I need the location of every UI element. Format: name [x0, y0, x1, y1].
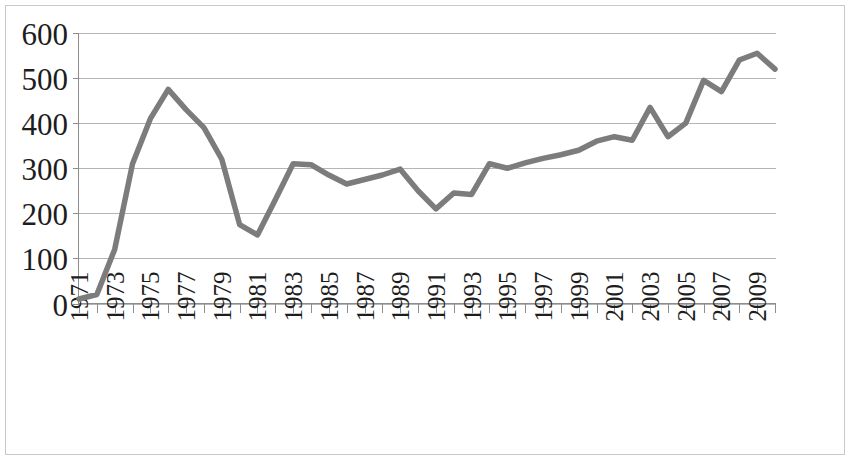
x-tick-label: 1977: [173, 272, 200, 322]
x-tick-label: 1989: [387, 272, 414, 322]
x-tick-label: 2007: [708, 272, 735, 322]
y-axis-tick-labels: 0100200300400500600: [22, 17, 69, 323]
x-tick-label: 1975: [137, 272, 164, 322]
x-tick-label: 1979: [209, 272, 236, 322]
x-tick-label: 1991: [423, 272, 450, 322]
x-tick-label: 1995: [494, 272, 521, 322]
data-series-line: [79, 53, 775, 299]
y-tick-label: 200: [22, 197, 69, 232]
line-chart: 0100200300400500600 19711973197519771979…: [0, 0, 859, 463]
x-tick-label: 1993: [459, 272, 486, 322]
y-tick-label: 600: [22, 17, 69, 52]
x-tick-label: 2003: [637, 272, 664, 322]
x-tick-label: 1997: [530, 272, 557, 322]
y-tick-label: 400: [22, 107, 69, 142]
chart-figure: 0100200300400500600 19711973197519771979…: [0, 0, 859, 463]
gridlines-group: [73, 34, 776, 305]
x-tick-label: 2001: [601, 272, 628, 322]
y-tick-label: 100: [22, 242, 69, 277]
x-axis-tick-labels: 1971197319751977197919811983198519871989…: [66, 272, 771, 322]
y-tick-label: 300: [22, 152, 69, 187]
x-tick-label: 1981: [244, 272, 271, 322]
x-tick-label: 1999: [566, 272, 593, 322]
x-tick-label: 1987: [352, 272, 379, 322]
x-tick-label: 2009: [744, 272, 771, 322]
x-tick-label: 2005: [673, 272, 700, 322]
y-tick-label: 500: [22, 62, 69, 97]
x-tick-label: 1983: [280, 272, 307, 322]
x-tick-label: 1985: [316, 272, 343, 322]
